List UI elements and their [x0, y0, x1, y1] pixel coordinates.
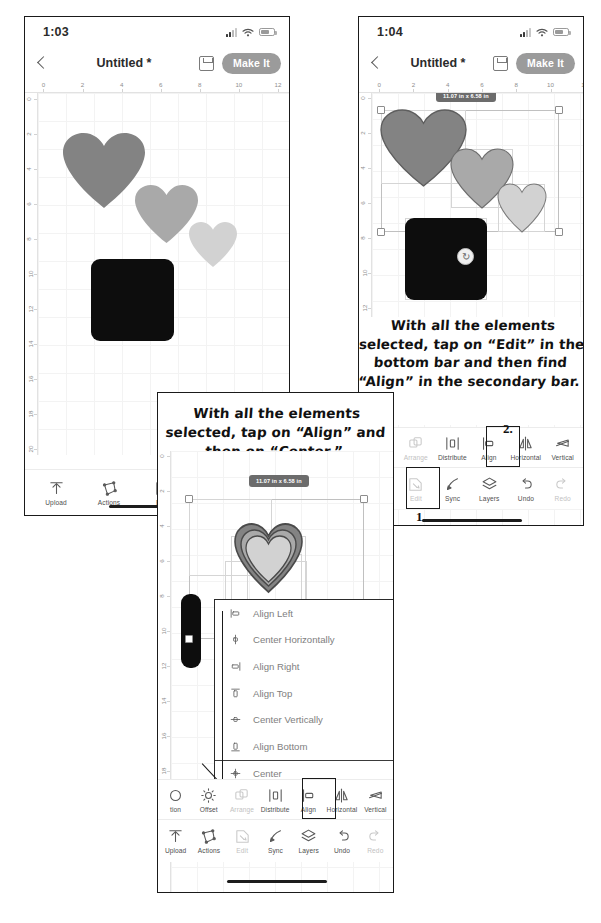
tool-label: Vertical: [551, 454, 573, 461]
ruler-tick-label: 4: [25, 167, 32, 170]
ruler-tick: [167, 491, 170, 492]
tool-label: Undo: [518, 495, 534, 502]
ruler-tick: [368, 273, 371, 274]
ruler-tick: [167, 701, 170, 702]
ruler-tick: [34, 99, 37, 100]
resize-handle-bottom-left[interactable]: [377, 228, 385, 236]
tool-arrange[interactable]: Arrange: [401, 435, 431, 461]
align-left-icon: [229, 607, 242, 620]
resize-handle-top-right[interactable]: [360, 495, 368, 503]
tool-actions[interactable]: Actions: [94, 480, 124, 506]
ruler-tick-label: 10: [235, 81, 242, 88]
menu-item-center-vertically[interactable]: Center Vertically: [215, 706, 393, 733]
ruler-tick-label: 10: [160, 628, 167, 635]
menu-item-align-bottom[interactable]: Align Bottom: [215, 733, 393, 760]
menu-item-align-top[interactable]: Align Top: [215, 680, 393, 707]
menu-item-label: Align Right: [253, 661, 299, 672]
tool-vertical[interactable]: Vertical: [548, 435, 578, 461]
tool-label: Redo: [555, 495, 571, 502]
save-icon[interactable]: [493, 56, 508, 71]
rounded-square-shape[interactable]: [181, 594, 201, 668]
annotation-leader-line: [222, 611, 223, 789]
back-chevron-icon[interactable]: [35, 56, 49, 70]
resize-handle-top-right[interactable]: [555, 106, 563, 114]
ruler-tick-label: 0: [158, 454, 165, 457]
tool-offset[interactable]: Offset: [194, 787, 224, 813]
ruler-tick-label: 10: [27, 271, 34, 278]
align-dropdown-menu[interactable]: Align LeftCenter HorizontallyAlign Right…: [214, 599, 393, 788]
heart-shape-small[interactable]: [189, 222, 237, 267]
tool-redo[interactable]: Redo: [548, 476, 578, 502]
ruler-tick: [516, 89, 517, 92]
tool-label: Layers: [479, 495, 499, 502]
ruler-tick: [167, 631, 170, 632]
status-clock: 1:04: [377, 25, 403, 39]
heart-shape-small[interactable]: [246, 536, 291, 582]
resize-handle-top-left[interactable]: [185, 495, 193, 503]
tool-upload[interactable]: Upload: [161, 828, 191, 854]
tool-distribute[interactable]: Distribute: [437, 435, 467, 461]
tool-label: Undo: [334, 847, 350, 854]
tool-arrange[interactable]: Arrange: [227, 787, 257, 813]
rotate-handle-icon[interactable]: ↻: [457, 248, 474, 265]
menu-item-align-left[interactable]: Align Left: [215, 600, 393, 627]
undo-icon: [517, 476, 534, 493]
menu-item-label: Align Left: [253, 608, 293, 619]
save-icon[interactable]: [199, 56, 214, 71]
redo-icon: [367, 828, 384, 845]
tool-undo[interactable]: Undo: [511, 476, 541, 502]
ruler-tick-label: 2: [81, 81, 84, 88]
make-it-button[interactable]: Make It: [516, 53, 575, 74]
phone-screenshot-3: With all the elements selected, tap on “…: [157, 392, 394, 893]
ruler-tick: [379, 89, 380, 92]
menu-item-align-right[interactable]: Align Right: [215, 653, 393, 680]
arrange-icon: [233, 787, 250, 804]
secondary-toolbar[interactable]: tionOffsetArrangeDistributeAlignHorizont…: [158, 779, 393, 819]
tool-undo[interactable]: Undo: [327, 828, 357, 854]
flip-vertical-icon: [554, 435, 571, 452]
tool-layers[interactable]: Layers: [294, 828, 324, 854]
ruler-tick: [167, 526, 170, 527]
tool-vertical[interactable]: Vertical: [360, 787, 390, 813]
heart-shape-large[interactable]: [63, 133, 145, 208]
resize-handle-bottom-right[interactable]: [555, 228, 563, 236]
ruler-tick-label: 4: [446, 81, 449, 88]
make-it-button[interactable]: Make It: [222, 53, 281, 74]
ruler-tick-label: 12: [27, 306, 34, 313]
ruler-tick-label: 2: [25, 132, 32, 135]
annotation-text-2: With all the elements selected, tap on “…: [359, 317, 583, 391]
tool-label: Redo: [367, 847, 383, 854]
align-right-icon: [229, 660, 242, 673]
resize-handle-top-left[interactable]: [377, 106, 385, 114]
ruler-tick-label: 2: [158, 489, 165, 492]
tool-sync[interactable]: Sync: [260, 828, 290, 854]
ruler-tick-label: 18: [27, 411, 34, 418]
back-chevron-icon[interactable]: [369, 56, 383, 70]
tool-sync[interactable]: Sync: [438, 476, 468, 502]
menu-item-center-horizontally[interactable]: Center Horizontally: [215, 627, 393, 654]
ruler-tick: [83, 89, 84, 92]
status-clock: 1:03: [43, 25, 69, 39]
tool-distribute[interactable]: Distribute: [260, 787, 290, 813]
rounded-square-shape[interactable]: [91, 259, 174, 341]
resize-handle-bottom-left[interactable]: [185, 635, 193, 643]
primary-toolbar[interactable]: UploadActionsEditSyncLayersUndoRedo: [158, 819, 393, 862]
tool-edit[interactable]: Edit: [227, 828, 257, 854]
tool-redo[interactable]: Redo: [360, 828, 390, 854]
ruler-tick: [34, 414, 37, 415]
tool-upload[interactable]: Upload: [41, 480, 71, 506]
heart-shape-small[interactable]: [498, 184, 546, 232]
ruler-tick-label: 20: [27, 446, 34, 453]
ruler-tick: [34, 344, 37, 345]
tool-layers[interactable]: Layers: [474, 476, 504, 502]
tool-actions[interactable]: Actions: [194, 828, 224, 854]
horizontal-ruler: 024681012: [25, 79, 289, 93]
ruler-tick-label: 6: [158, 559, 165, 562]
tool-tion[interactable]: tion: [161, 787, 191, 813]
rounded-square-shape[interactable]: [405, 218, 487, 300]
menu-item-label: Align Bottom: [253, 741, 307, 752]
distribute-icon: [444, 435, 461, 452]
ruler-tick-label: 8: [359, 236, 366, 239]
tool-label: Sync: [445, 495, 460, 502]
ruler-tick-label: 4: [359, 166, 366, 169]
